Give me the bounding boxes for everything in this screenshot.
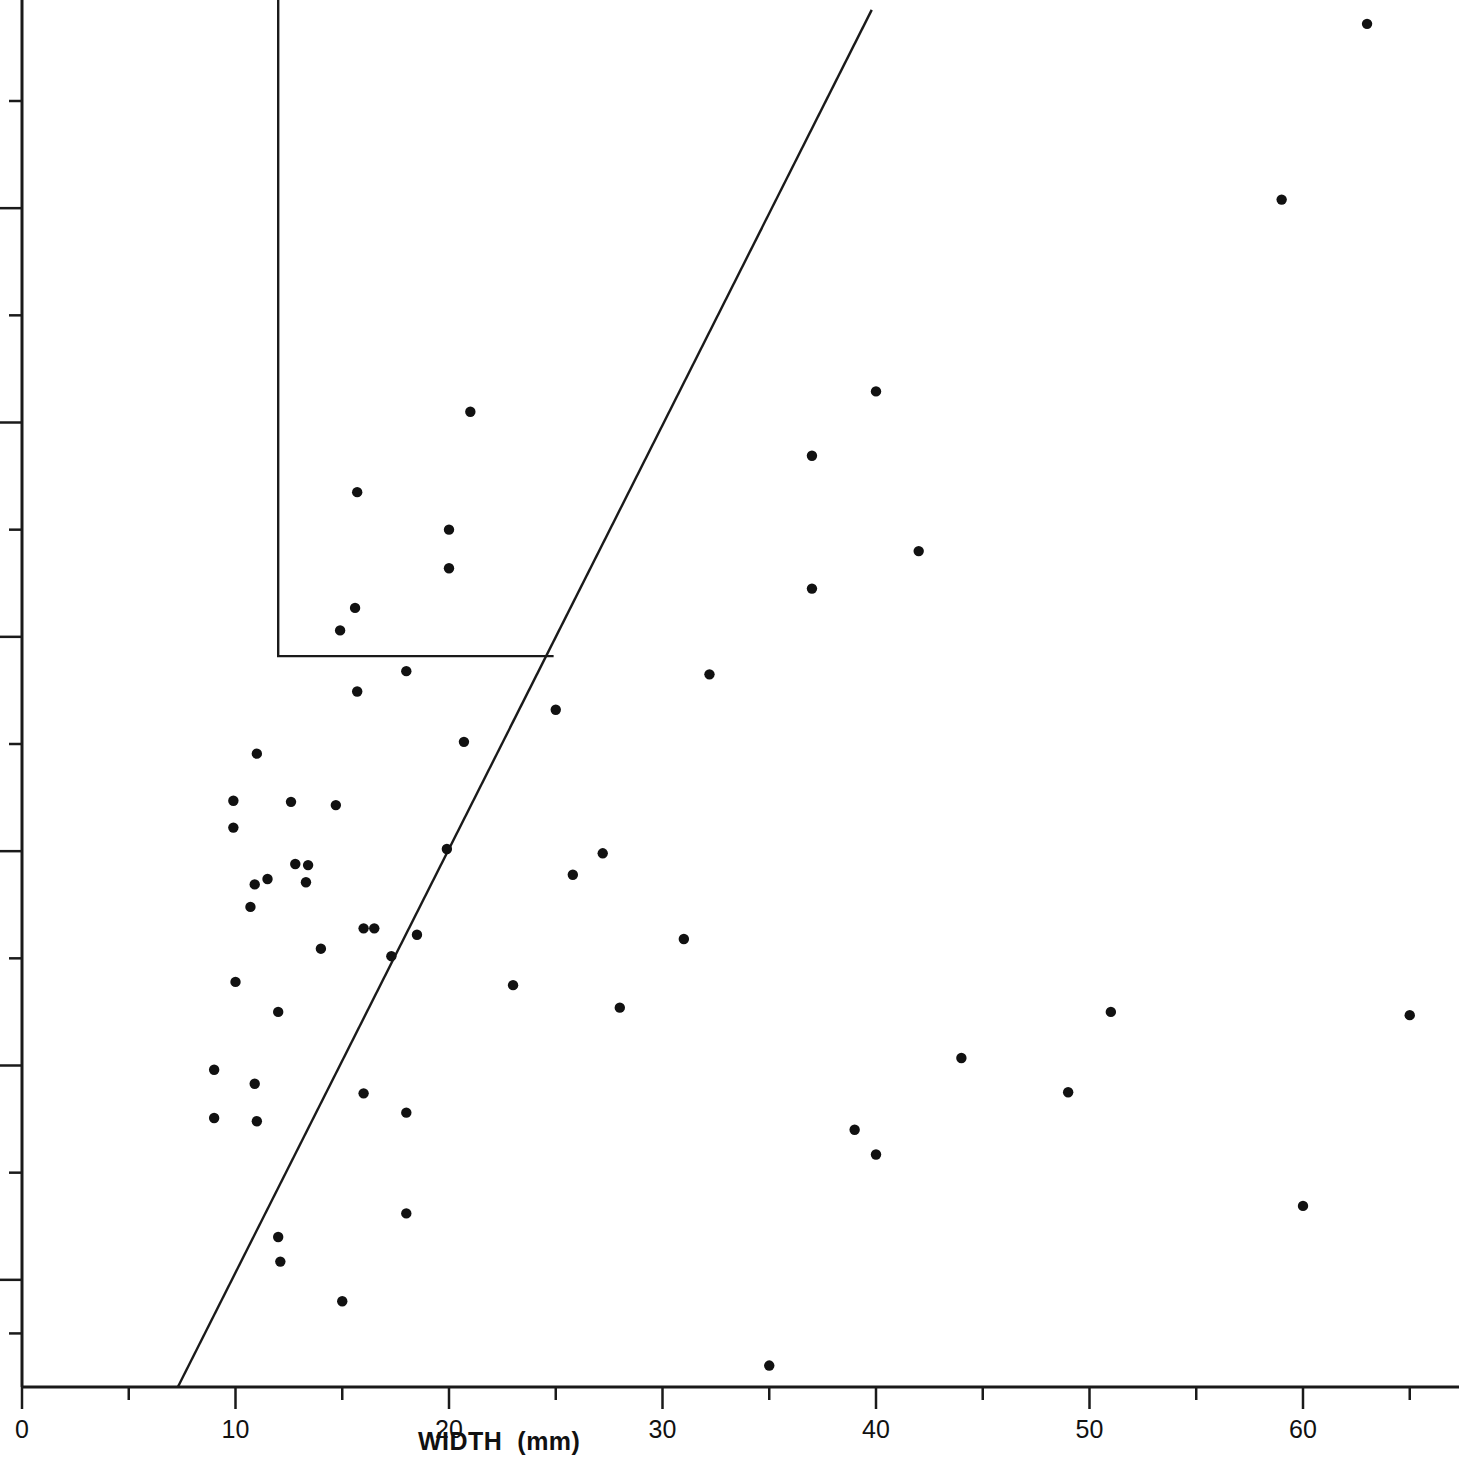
data-point	[275, 1256, 285, 1266]
data-point	[252, 748, 262, 758]
data-point	[764, 1360, 774, 1370]
x-tick-label: 50	[1076, 1415, 1104, 1444]
data-point	[401, 1208, 411, 1218]
data-point	[568, 870, 578, 880]
data-point	[401, 666, 411, 676]
data-point	[704, 669, 714, 679]
data-point	[228, 822, 238, 832]
x-tick-label: 10	[222, 1415, 250, 1444]
data-point	[401, 1107, 411, 1117]
data-point	[956, 1053, 966, 1063]
data-point	[679, 934, 689, 944]
data-point	[273, 1232, 283, 1242]
data-point	[290, 859, 300, 869]
data-point	[228, 796, 238, 806]
data-point	[250, 1079, 260, 1089]
data-point	[444, 524, 454, 534]
inset-frame	[278, 0, 553, 656]
data-point	[352, 487, 362, 497]
data-point	[273, 1007, 283, 1017]
data-point	[230, 977, 240, 987]
data-point	[1405, 1010, 1415, 1020]
data-point	[1362, 19, 1372, 29]
data-point	[252, 1116, 262, 1126]
x-tick-label: 30	[649, 1415, 677, 1444]
data-point	[849, 1125, 859, 1135]
data-point	[250, 879, 260, 889]
data-point	[337, 1296, 347, 1306]
data-point	[444, 563, 454, 573]
data-point	[369, 923, 379, 933]
scatter-plot-figure: WIDTH (mm) 0102030405060	[0, 0, 1459, 1458]
annotation-group	[178, 0, 872, 1387]
data-point	[316, 943, 326, 953]
x-tick-label: 60	[1289, 1415, 1317, 1444]
data-point	[301, 877, 311, 887]
axes-group	[0, 0, 1459, 1409]
data-point	[245, 902, 255, 912]
data-point	[807, 583, 817, 593]
data-point	[262, 874, 272, 884]
data-point	[331, 800, 341, 810]
data-point	[335, 625, 345, 635]
data-point	[459, 737, 469, 747]
x-tick-label: 20	[435, 1415, 463, 1444]
data-point	[286, 797, 296, 807]
data-point	[1298, 1201, 1308, 1211]
data-point	[807, 451, 817, 461]
plot-canvas	[0, 0, 1459, 1458]
data-point	[551, 705, 561, 715]
data-point	[615, 1002, 625, 1012]
data-point	[209, 1065, 219, 1075]
data-point	[508, 980, 518, 990]
data-point	[1063, 1087, 1073, 1097]
data-point	[350, 603, 360, 613]
data-point	[303, 860, 313, 870]
data-point	[358, 923, 368, 933]
data-point-group	[209, 19, 1415, 1371]
data-point	[352, 686, 362, 696]
data-point	[1276, 194, 1286, 204]
data-point	[871, 386, 881, 396]
data-point	[209, 1113, 219, 1123]
x-tick-label: 40	[862, 1415, 890, 1444]
data-point	[442, 844, 452, 854]
data-point	[358, 1088, 368, 1098]
data-point	[465, 407, 475, 417]
data-point	[598, 848, 608, 858]
data-point	[1106, 1007, 1116, 1017]
data-point	[386, 951, 396, 961]
data-point	[871, 1149, 881, 1159]
data-point	[412, 930, 422, 940]
reference-line	[178, 10, 872, 1387]
data-point	[914, 546, 924, 556]
x-tick-label: 0	[15, 1415, 29, 1444]
